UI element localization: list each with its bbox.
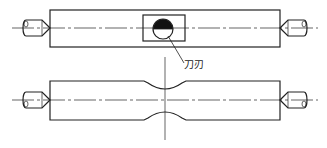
tool-edge-leader (168, 36, 184, 63)
cutting-edge-circle-icon (153, 19, 173, 39)
top-view (12, 10, 318, 63)
tool-edge-label: 刀刃 (184, 60, 204, 70)
diagram-canvas (0, 0, 327, 148)
